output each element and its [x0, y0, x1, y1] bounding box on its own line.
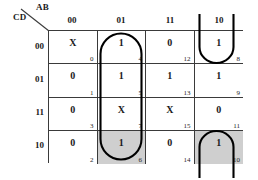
kmap-figure: CD AB 00 01 11 10 00 01 11 10 X014012180… — [0, 0, 258, 180]
kmap-cell-index: 6 — [139, 156, 143, 164]
kmap-cell-index: 11 — [233, 122, 240, 130]
column-header-0: 00 — [48, 15, 96, 25]
kmap-cell-4[interactable]: 14 — [98, 31, 147, 64]
kmap-cell-0[interactable]: X0 — [49, 31, 98, 64]
kmap-cell-index: 7 — [139, 122, 143, 130]
kmap-cell-value: X — [98, 104, 146, 115]
kmap-cell-11[interactable]: 011 — [195, 98, 244, 131]
kmap-cell-value: 1 — [195, 137, 244, 148]
kmap-cell-10[interactable]: 110 — [195, 131, 244, 164]
kmap-cell-value: 1 — [195, 70, 244, 81]
kmap-cell-15[interactable]: X15 — [146, 98, 195, 131]
kmap-cell-9[interactable]: 19 — [195, 64, 244, 97]
kmap-cell-value: 0 — [49, 70, 97, 81]
kmap-cell-index: 9 — [237, 89, 241, 97]
row-header-3: 10 — [14, 140, 44, 150]
kmap-cell-value: X — [49, 37, 97, 48]
kmap-cell-value: 0 — [146, 37, 194, 48]
kmap-cell-2[interactable]: 02 — [49, 131, 98, 164]
kmap-cell-index: 3 — [90, 122, 94, 130]
kmap-cell-value: X — [146, 104, 194, 115]
kmap-cell-index: 5 — [139, 89, 143, 97]
kmap-cell-value: 1 — [146, 70, 194, 81]
kmap-cell-1[interactable]: 01 — [49, 64, 98, 97]
row-header-2: 11 — [14, 107, 44, 117]
kmap-cell-index: 12 — [184, 55, 191, 63]
kmap-cell-value: 1 — [195, 37, 244, 48]
kmap-cell-value: 1 — [98, 137, 146, 148]
kmap-cell-13[interactable]: 113 — [146, 64, 195, 97]
kmap-cell-index: 13 — [184, 89, 191, 97]
kmap-cell-value: 0 — [49, 137, 97, 148]
kmap-cell-index: 10 — [233, 156, 240, 164]
column-header-2: 11 — [146, 15, 194, 25]
kmap-cell-value: 0 — [146, 137, 194, 148]
kmap-cell-index: 8 — [237, 55, 241, 63]
kmap-cell-index: 1 — [90, 89, 94, 97]
kmap-cell-value: 1 — [98, 70, 146, 81]
kmap-cell-8[interactable]: 18 — [195, 31, 244, 64]
kmap-grid: X0140121801151131903X7X150110216014110 — [48, 30, 243, 163]
header-diagonal-line — [20, 8, 50, 32]
row-header-0: 00 — [14, 41, 44, 51]
kmap-cell-value: 0 — [195, 104, 244, 115]
kmap-cell-14[interactable]: 014 — [146, 131, 195, 164]
kmap-cell-index: 14 — [184, 156, 191, 164]
column-header-3: 10 — [195, 15, 243, 25]
kmap-cell-index: 15 — [184, 122, 191, 130]
row-header-1: 01 — [14, 74, 44, 84]
kmap-cell-index: 0 — [90, 55, 94, 63]
kmap-cell-7[interactable]: X7 — [98, 98, 147, 131]
kmap-cell-value: 0 — [49, 104, 97, 115]
kmap-cell-12[interactable]: 012 — [146, 31, 195, 64]
kmap-cell-value: 1 — [98, 37, 146, 48]
kmap-cell-index: 2 — [90, 156, 94, 164]
kmap-cell-6[interactable]: 16 — [98, 131, 147, 164]
kmap-cell-3[interactable]: 03 — [49, 98, 98, 131]
kmap-cell-5[interactable]: 15 — [98, 64, 147, 97]
column-header-1: 01 — [97, 15, 145, 25]
kmap-cell-index: 4 — [139, 55, 143, 63]
